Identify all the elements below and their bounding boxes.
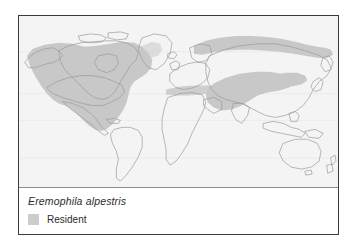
figure-frame: Eremophila alpestris Resident	[18, 15, 339, 235]
range-map-panel	[19, 16, 338, 188]
legend-label-resident: Resident	[47, 214, 86, 225]
species-name: Eremophila alpestris	[28, 195, 338, 208]
legend: Resident	[28, 214, 338, 225]
legend-swatch-resident	[28, 214, 39, 225]
caption-panel: Eremophila alpestris Resident	[19, 188, 338, 234]
world-map-svg	[19, 16, 338, 187]
